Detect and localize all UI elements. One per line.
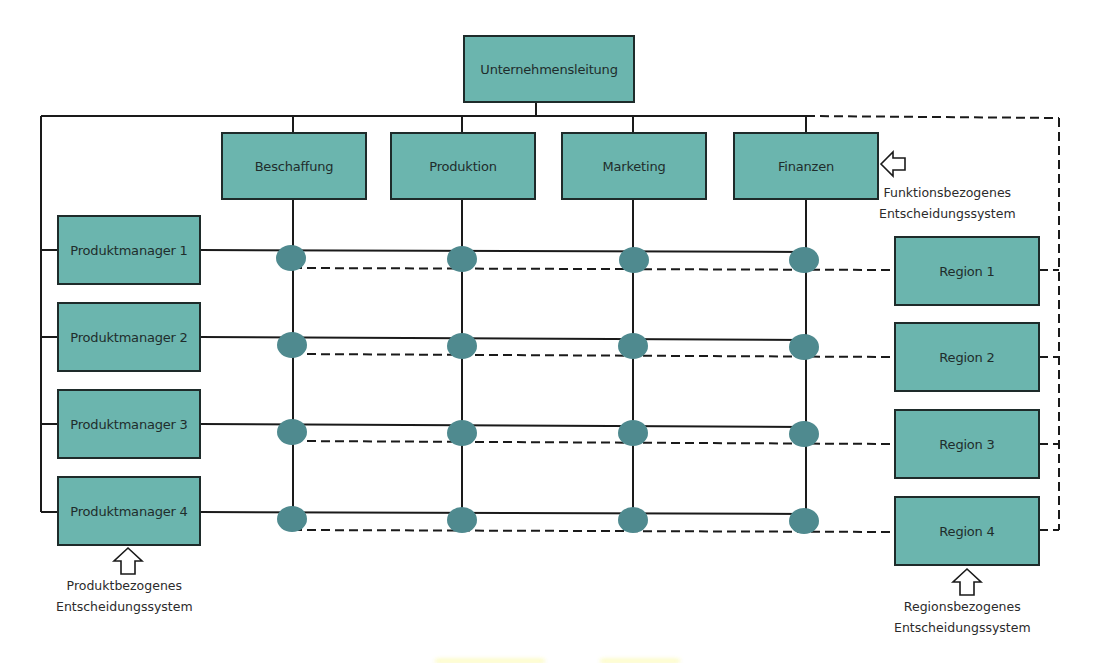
annotation-line: Produktbezogenes — [56, 575, 193, 596]
region-box-1: Region 1 — [894, 236, 1040, 306]
box-label: Region 4 — [939, 524, 994, 539]
box-label: Produktmanager 2 — [70, 330, 187, 345]
box-label: Unternehmensleitung — [480, 62, 617, 77]
product-box-2: Produktmanager 2 — [57, 302, 201, 372]
highlight-artifact — [435, 659, 545, 663]
box-label: Produktmanager 3 — [70, 417, 187, 432]
box-label: Region 3 — [939, 437, 994, 452]
function-box-marketing: Marketing — [561, 132, 707, 200]
annotation-line: Entscheidungssystem — [879, 203, 1016, 224]
box-label: Finanzen — [778, 159, 834, 174]
arrow-left-icon — [881, 152, 905, 176]
function-box-beschaffung: Beschaffung — [221, 132, 367, 200]
box-label: Produktmanager 1 — [70, 243, 187, 258]
region-box-2: Region 2 — [894, 322, 1040, 392]
box-unternehmensleitung: Unternehmensleitung — [463, 35, 635, 103]
box-label: Region 1 — [939, 264, 994, 279]
annotation-region-system: Regionsbezogenes Entscheidungssystem — [894, 596, 1031, 638]
annotation-product-system: Produktbezogenes Entscheidungssystem — [56, 575, 193, 617]
region-box-4: Region 4 — [894, 496, 1040, 566]
region-box-3: Region 3 — [894, 409, 1040, 479]
annotation-function-system: Funktionsbezogenes Entscheidungssystem — [879, 182, 1016, 224]
product-box-3: Produktmanager 3 — [57, 389, 201, 459]
box-label: Marketing — [603, 159, 666, 174]
box-label: Produktion — [429, 159, 497, 174]
highlight-artifact — [600, 659, 680, 663]
annotation-line: Regionsbezogenes — [894, 596, 1031, 617]
arrow-icons — [114, 152, 981, 595]
box-label: Produktmanager 4 — [70, 504, 187, 519]
box-label: Beschaffung — [255, 159, 334, 174]
function-box-produktion: Produktion — [390, 132, 536, 200]
product-box-1: Produktmanager 1 — [57, 215, 201, 285]
box-label: Region 2 — [939, 350, 994, 365]
annotation-line: Entscheidungssystem — [56, 596, 193, 617]
product-box-4: Produktmanager 4 — [57, 476, 201, 546]
annotation-line: Entscheidungssystem — [894, 617, 1031, 638]
arrow-up-icon — [114, 548, 142, 574]
arrow-up-icon — [953, 569, 981, 595]
matrix-nodes — [276, 245, 819, 534]
annotation-line: Funktionsbezogenes — [879, 182, 1016, 203]
function-box-finanzen: Finanzen — [733, 132, 879, 200]
